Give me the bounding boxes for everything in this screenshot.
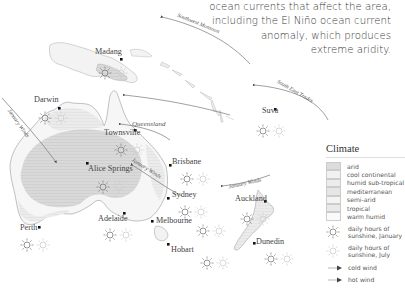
legend-sunshine-january: daily hours ofsunshine, January bbox=[326, 225, 405, 240]
sunshine-pair-icon bbox=[200, 256, 232, 270]
swatch-semi-arid bbox=[326, 196, 341, 204]
city-label-townsville: Townsville bbox=[104, 128, 140, 137]
intro-text: ocean currents that affect the area, inc… bbox=[209, 0, 391, 57]
swatch-tropical bbox=[326, 204, 341, 212]
legend-label: hot wind bbox=[348, 276, 374, 283]
city-label-hobart: Hobart bbox=[171, 245, 194, 254]
intro-line-4: extreme aridity. bbox=[209, 43, 391, 57]
swatch-mediterranean bbox=[326, 187, 341, 195]
intro-line-1: ocean currents that affect the area, bbox=[209, 0, 391, 14]
swatch-humid-sub-tropical bbox=[326, 179, 341, 187]
legend-title: Climate bbox=[326, 143, 405, 158]
city-label-adelaide: Adelaide bbox=[98, 214, 128, 223]
legend-label: sunshine, July bbox=[348, 251, 390, 258]
sunshine-pair-icon bbox=[38, 111, 70, 125]
swatch-warm-humid bbox=[326, 212, 341, 220]
legend-item-arid: arid bbox=[326, 162, 405, 170]
city-label-melbourne: Melbourne bbox=[156, 216, 192, 225]
sun-january-icon bbox=[326, 225, 340, 239]
city-label-suva: Suva bbox=[262, 106, 278, 115]
climate-legend: Climate arid cool continental humid sub-… bbox=[326, 143, 405, 283]
sunshine-pair-icon bbox=[256, 124, 288, 138]
legend-label: cold wind bbox=[348, 264, 377, 271]
legend-label: daily hours of bbox=[348, 225, 402, 232]
city-label-darwin: Darwin bbox=[34, 95, 59, 104]
sunshine-pair-icon bbox=[96, 180, 128, 194]
city-label-perth: Perth bbox=[20, 223, 37, 232]
legend-label: tropical bbox=[347, 205, 370, 212]
legend-item-mediterranean: mediterranean bbox=[326, 187, 405, 195]
sunshine-pair-icon bbox=[98, 66, 130, 80]
intro-line-2: including the El Niño ocean current bbox=[209, 14, 391, 28]
intro-line-3: anomaly, which produces bbox=[209, 29, 391, 43]
swatch-arid bbox=[326, 162, 341, 170]
wind-label-queensland: Queensland bbox=[132, 120, 165, 128]
legend-label: warm humid bbox=[347, 213, 385, 220]
legend-label: daily hours of bbox=[348, 244, 390, 251]
sunshine-pair-icon bbox=[196, 224, 228, 238]
sunshine-pair-icon bbox=[180, 172, 212, 186]
legend-item-semi-arid: semi-arid bbox=[326, 196, 405, 204]
city-label-brisbane: Brisbane bbox=[172, 157, 201, 166]
sunshine-pair-icon bbox=[114, 143, 146, 157]
city-label-auckland: Auckland bbox=[235, 194, 267, 203]
sunshine-pair-icon bbox=[20, 238, 52, 252]
legend-label: mediterranean bbox=[347, 188, 392, 195]
legend-item-warm-humid: warm humid bbox=[326, 212, 405, 220]
city-label-alice-springs: Alice Springs bbox=[88, 164, 133, 173]
sunshine-pair-icon bbox=[264, 252, 296, 266]
hot-wind-arrow-icon bbox=[326, 277, 344, 283]
swatch-cool-continental bbox=[326, 170, 341, 178]
legend-label: sunshine, January bbox=[348, 232, 402, 239]
city-label-sydney: Sydney bbox=[172, 190, 197, 199]
sun-july-icon bbox=[326, 244, 340, 258]
sunshine-pair-icon bbox=[240, 212, 272, 226]
legend-sunshine-july: daily hours ofsunshine, July bbox=[326, 244, 405, 259]
city-label-madang: Madang bbox=[95, 47, 122, 56]
legend-cold-wind: cold wind bbox=[326, 264, 405, 271]
legend-label: semi-arid bbox=[347, 196, 376, 203]
city-label-dunedin: Dunedin bbox=[256, 237, 284, 246]
legend-label: humid sub-tropical bbox=[347, 179, 404, 186]
cold-wind-arrow-icon bbox=[326, 265, 344, 271]
legend-item-humid-sub-tropical: humid sub-tropical bbox=[326, 179, 405, 187]
legend-hot-wind: hot wind bbox=[326, 276, 405, 283]
legend-item-tropical: tropical bbox=[326, 204, 405, 212]
sunshine-pair-icon bbox=[103, 228, 135, 242]
legend-label: arid bbox=[347, 163, 359, 170]
legend-item-cool-continental: cool continental bbox=[326, 170, 405, 178]
legend-label: cool continental bbox=[347, 171, 396, 178]
